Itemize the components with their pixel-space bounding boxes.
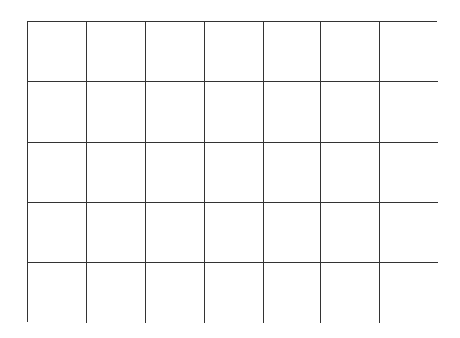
grid-cell bbox=[28, 203, 87, 263]
grid-cell bbox=[380, 263, 438, 323]
grid-cell bbox=[87, 263, 146, 323]
grid-cell bbox=[380, 203, 438, 263]
empty-grid bbox=[27, 21, 437, 322]
grid-cell bbox=[205, 143, 264, 203]
grid-cell bbox=[264, 143, 321, 203]
grid-cell bbox=[146, 82, 205, 143]
grid-cell bbox=[205, 263, 264, 323]
grid-cell bbox=[87, 143, 146, 203]
grid-cell bbox=[146, 22, 205, 82]
grid-cell bbox=[380, 82, 438, 143]
grid-cell bbox=[87, 22, 146, 82]
grid-cell bbox=[380, 22, 438, 82]
grid-cell bbox=[205, 22, 264, 82]
grid-cell bbox=[146, 143, 205, 203]
grid-cell bbox=[28, 22, 87, 82]
grid-cell bbox=[28, 263, 87, 323]
grid-cell bbox=[321, 263, 380, 323]
grid-cell bbox=[146, 263, 205, 323]
grid-cell bbox=[264, 22, 321, 82]
grid-cell bbox=[380, 143, 438, 203]
grid-cell bbox=[264, 263, 321, 323]
grid-cell bbox=[321, 82, 380, 143]
grid-cell bbox=[28, 82, 87, 143]
grid-cell bbox=[87, 203, 146, 263]
grid-cell bbox=[205, 82, 264, 143]
grid-cell bbox=[28, 143, 87, 203]
grid-cell bbox=[264, 203, 321, 263]
grid-cell bbox=[87, 82, 146, 143]
grid-cell bbox=[205, 203, 264, 263]
grid-cell bbox=[321, 203, 380, 263]
grid-cell bbox=[146, 203, 205, 263]
grid-cell bbox=[264, 82, 321, 143]
grid-cell bbox=[321, 143, 380, 203]
grid-cell bbox=[321, 22, 380, 82]
